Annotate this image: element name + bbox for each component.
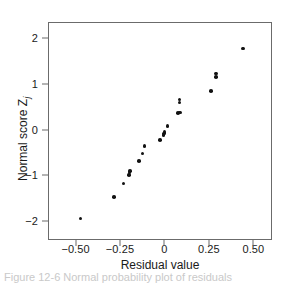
y-axis-tick-mark	[42, 175, 48, 176]
y-axis-tick-mark	[42, 129, 48, 130]
data-point	[241, 47, 245, 51]
data-point	[143, 144, 147, 148]
y-axis-label-text: Normal score Z	[16, 99, 30, 181]
data-point	[79, 217, 83, 221]
data-point	[166, 124, 170, 128]
data-point	[178, 101, 182, 105]
data-point	[158, 138, 162, 142]
y-axis-tick-mark	[42, 84, 48, 85]
data-point	[128, 169, 132, 173]
data-point	[112, 195, 116, 199]
data-point	[209, 89, 213, 93]
x-axis-tick-mark	[75, 240, 76, 246]
plot-frame	[48, 22, 272, 240]
scatter-points-layer	[49, 23, 271, 239]
x-axis-label: Residual value	[48, 258, 272, 272]
x-axis-label-text: Residual value	[121, 258, 200, 272]
y-axis-label: Normal score Zj	[16, 59, 32, 219]
x-axis-tick-mark	[208, 240, 209, 246]
data-point	[163, 130, 167, 134]
x-axis-tick-mark	[120, 240, 121, 246]
figure-caption: Figure 12-6 Normal probability plot of r…	[0, 271, 290, 283]
y-axis-tick-mark	[42, 38, 48, 39]
data-point	[122, 182, 126, 186]
y-axis-tick-label: 2	[32, 32, 38, 44]
data-point	[178, 98, 182, 102]
data-point	[214, 75, 218, 79]
y-axis-tick-mark	[42, 220, 48, 221]
x-axis-tick-mark	[164, 240, 165, 246]
y-axis-tick-label: 0	[32, 124, 38, 136]
data-point	[137, 159, 141, 163]
y-axis-label-subscript: j	[22, 97, 32, 99]
data-point	[141, 152, 145, 156]
x-axis-tick-mark	[253, 240, 254, 246]
data-point	[178, 111, 182, 115]
y-axis-tick-label: 1	[32, 78, 38, 90]
